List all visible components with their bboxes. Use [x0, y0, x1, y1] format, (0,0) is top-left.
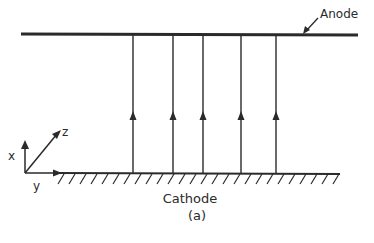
x-arrowhead-icon: [21, 140, 29, 149]
x-axis-label: x: [8, 149, 15, 163]
cathode-plate: [58, 173, 340, 174]
up-arrow-icon: [130, 111, 137, 120]
z-axis-arrow: [25, 134, 57, 173]
figure-caption: (a): [188, 208, 206, 223]
cathode-hatching: [58, 174, 339, 184]
coordinate-axes: [25, 134, 57, 173]
up-arrow-icon: [200, 111, 207, 120]
z-axis-label: z: [62, 125, 68, 139]
up-arrow-icon: [170, 111, 177, 120]
up-arrow-icon: [273, 111, 280, 120]
diagram-canvas: Anode: [0, 0, 374, 243]
y-arrowhead-icon: [53, 170, 62, 177]
field-arrowheads: [130, 111, 280, 120]
field-lines: [133, 35, 276, 173]
anode-label: Anode: [320, 7, 358, 21]
anode-plate: [21, 34, 358, 35]
cathode-label: Cathode: [163, 191, 218, 206]
y-axis-label: y: [33, 179, 40, 193]
up-arrow-icon: [238, 111, 245, 120]
